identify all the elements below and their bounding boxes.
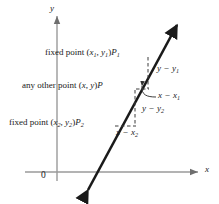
point-p-label: any other point (x, y)P bbox=[22, 81, 103, 90]
annotation-delta-x1: x − x1 bbox=[158, 91, 180, 101]
y-axis-label: y bbox=[50, 4, 54, 13]
annotation-delta-x1-tail-sub: 1 bbox=[177, 95, 180, 101]
annotation-delta-x2-tail-sub: 2 bbox=[135, 132, 138, 138]
point-p1-label: fixed point (x1, y1)P1 bbox=[45, 48, 120, 58]
annotation-delta-y1-tail-sub: 1 bbox=[176, 68, 179, 74]
origin-label: 0 bbox=[41, 171, 46, 181]
point-p-name: P bbox=[97, 80, 103, 90]
annotation-delta-x2: x − x2 bbox=[116, 128, 138, 138]
point-p2-name-sub: 2 bbox=[81, 122, 84, 128]
point-p1-name-sub: 1 bbox=[117, 52, 120, 58]
point-p2-label: fixed point (x2, y2)P2 bbox=[9, 118, 84, 128]
annotation-delta-x1-op: − bbox=[162, 90, 173, 100]
point-p1-prefix: fixed point bbox=[45, 47, 87, 57]
annotation-delta-y2-tail-sub: 2 bbox=[161, 108, 164, 114]
annotation-delta-y2: y − y2 bbox=[142, 104, 164, 114]
annotation-delta-x2-op: − bbox=[120, 127, 131, 137]
annotation-delta-y1: y − y1 bbox=[157, 64, 179, 74]
figure-canvas bbox=[0, 0, 219, 204]
annotation-delta-y1-op: − bbox=[161, 63, 172, 73]
line-two-point-form-figure: y x 0 fixed point (x1, y1)P1 any other p… bbox=[0, 0, 219, 204]
point-p-prefix: any other point bbox=[22, 80, 79, 90]
point-p2-prefix: fixed point bbox=[9, 117, 51, 127]
upper-triangle-dashed bbox=[136, 57, 149, 89]
x-axis-label: x bbox=[205, 165, 209, 174]
annotation-delta-y2-op: − bbox=[146, 103, 157, 113]
